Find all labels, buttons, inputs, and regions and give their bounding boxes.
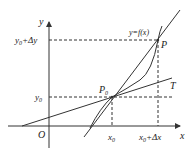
point-p0 xyxy=(111,96,113,98)
y0-dy-tick-label: y0+Δy xyxy=(14,35,37,46)
origin-label: O xyxy=(38,129,45,140)
x0-dx-tick-label: x0+Δx xyxy=(138,132,161,143)
function-curve xyxy=(90,26,162,128)
x0-tick-label: x0 xyxy=(107,132,115,143)
y-axis-label: y xyxy=(38,16,44,27)
derivative-diagram: y x O y=f(x) P P0 T x0 x0+Δx y0 y0+Δy xyxy=(0,0,190,156)
y0-tick-label: y0 xyxy=(34,92,42,103)
tangent-line xyxy=(22,78,172,126)
x-axis-label: x xyxy=(179,130,185,141)
point-p xyxy=(157,39,159,41)
point-p-label: P xyxy=(160,39,167,50)
curve-label: y=f(x) xyxy=(128,28,149,37)
tangent-label: T xyxy=(170,80,177,91)
point-p0-label: P0 xyxy=(98,84,108,96)
